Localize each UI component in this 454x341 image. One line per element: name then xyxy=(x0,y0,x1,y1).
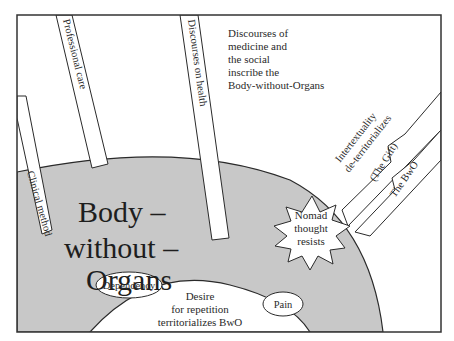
pain-label: Pain xyxy=(274,299,293,310)
nomad-line-1: Nomad xyxy=(295,209,328,221)
nomad-line-2: thought xyxy=(294,222,328,234)
desire-line-2: for repetition xyxy=(171,303,229,315)
desire-line-1: Desire xyxy=(186,290,215,302)
nomad-line-3: resists xyxy=(297,235,325,247)
central-concept-line-1: Body – xyxy=(78,195,167,228)
desire-line-3: territorializes BwO xyxy=(158,316,243,328)
svg-text:Discourses of: Discourses of xyxy=(228,27,289,39)
diagram-canvas: Clinical method Professional care Discou… xyxy=(0,0,454,341)
svg-text:the social: the social xyxy=(228,53,270,65)
svg-text:inscribe the: inscribe the xyxy=(228,66,279,78)
dependency-label: Dependency xyxy=(103,280,156,291)
central-concept-line-2: without – xyxy=(64,231,179,264)
svg-text:Body-without-Organs: Body-without-Organs xyxy=(228,79,324,91)
svg-text:medicine and: medicine and xyxy=(228,40,287,52)
